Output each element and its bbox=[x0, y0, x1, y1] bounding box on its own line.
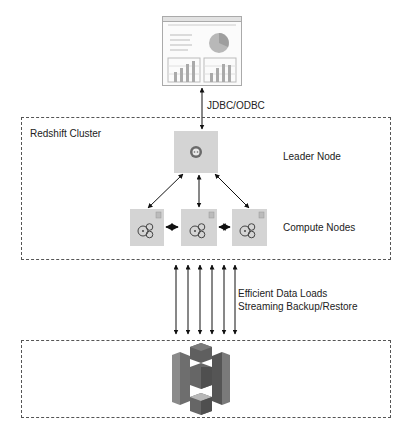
leader-node-label: Leader Node bbox=[283, 150, 341, 163]
leader-node-icon bbox=[174, 131, 218, 173]
compute-node-2 bbox=[181, 209, 217, 246]
connection-label: JDBC/ODBC bbox=[207, 99, 265, 112]
amazon-s3-icon bbox=[172, 343, 230, 415]
compute-node-icon bbox=[181, 209, 217, 246]
compute-node-icon bbox=[130, 209, 164, 246]
compute-node-icon bbox=[232, 209, 267, 246]
compute-node-1 bbox=[130, 209, 164, 246]
compute-nodes-label: Compute Nodes bbox=[283, 221, 355, 234]
compute-node-3 bbox=[232, 209, 267, 246]
leader-node bbox=[174, 131, 218, 173]
s3-bucket bbox=[172, 343, 230, 415]
data-transfer-line-2: Streaming Backup/Restore bbox=[238, 300, 358, 313]
cluster-title: Redshift Cluster bbox=[30, 127, 101, 140]
data-transfer-line-1: Efficient Data Loads bbox=[238, 287, 327, 300]
